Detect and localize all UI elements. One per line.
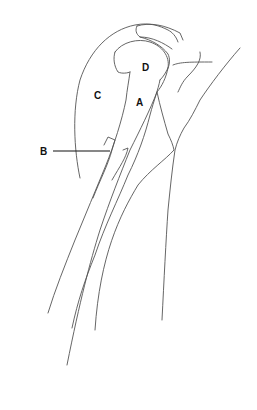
label-d: D — [142, 62, 149, 73]
label-b: B — [40, 146, 47, 157]
humeral-head-notch — [114, 52, 130, 73]
deltoid-outline — [75, 24, 178, 178]
shoulder-diagram: D C A B — [0, 0, 257, 410]
tendon-outline — [93, 137, 115, 198]
clavicle-line-2 — [178, 52, 200, 92]
label-a: A — [136, 97, 143, 108]
label-c: C — [94, 90, 101, 101]
humerus-shaft-left — [48, 72, 130, 313]
torso-line — [162, 48, 240, 320]
humerus-shaft-right — [72, 80, 160, 328]
clavicle-line-1 — [173, 62, 212, 65]
lateral-line-1 — [67, 68, 168, 365]
